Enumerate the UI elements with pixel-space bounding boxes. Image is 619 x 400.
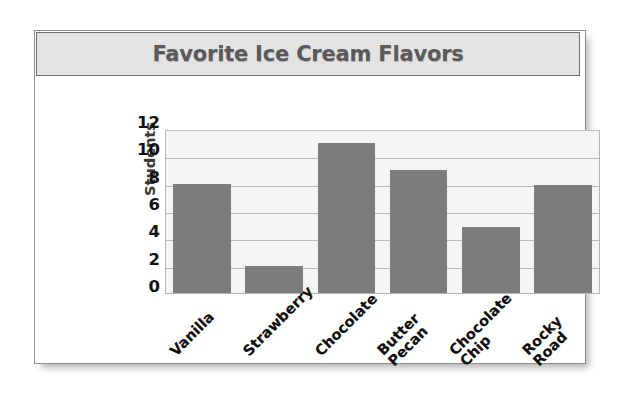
chart-screenshot: Favorite Ice Cream Flavors Students 1210… (0, 0, 619, 400)
bar[interactable] (318, 143, 376, 293)
y-tick-label: 12 (131, 115, 160, 131)
x-tick-label-line: Chocolate (312, 290, 381, 359)
y-tick-label: 0 (131, 279, 160, 295)
bar-slot (238, 131, 310, 293)
bar[interactable] (534, 185, 592, 293)
y-tick-label: 4 (131, 224, 160, 240)
y-tick-label: 10 (131, 142, 160, 158)
bar-series (166, 131, 599, 293)
bar[interactable] (390, 170, 448, 293)
page-title: Favorite Ice Cream Flavors (152, 42, 463, 66)
bar[interactable] (245, 266, 303, 293)
x-tick-label: ChocolateChip (447, 291, 525, 369)
y-tick-label: 2 (131, 252, 160, 268)
plot-area (165, 130, 600, 294)
y-axis-tick-labels: 121086420 (131, 123, 160, 293)
x-tick-label: Vanilla (167, 309, 217, 359)
title-banner: Favorite Ice Cream Flavors (36, 32, 580, 76)
x-tick-label: Chocolate (312, 291, 380, 359)
y-tick-label: 6 (131, 197, 160, 213)
y-tick-label: 8 (131, 170, 160, 186)
x-axis-tick-labels: VanillaStrawberryChocolateButterPecanCho… (165, 297, 600, 387)
x-tick-label: RockyRoad (519, 313, 575, 369)
x-tick-label: ButterPecan (374, 311, 432, 369)
chart-card: Favorite Ice Cream Flavors Students 1210… (34, 30, 586, 364)
bar-slot (527, 131, 599, 293)
bar-slot (383, 131, 455, 293)
x-tick-label-line: Vanilla (167, 309, 217, 359)
plot-wrapper: Students 121086420 (131, 93, 571, 298)
bar-slot (166, 131, 238, 293)
bar[interactable] (173, 184, 231, 293)
bar-slot (455, 131, 527, 293)
bar[interactable] (462, 227, 520, 293)
bar-slot (310, 131, 382, 293)
